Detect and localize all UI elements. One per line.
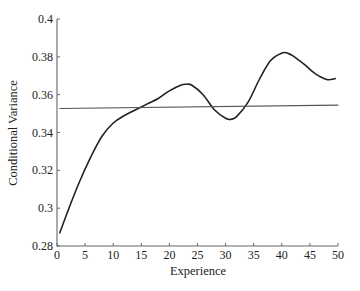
x-tick-label: 20 xyxy=(163,248,175,262)
y-tick-label: 0.32 xyxy=(32,163,53,177)
y-tick-label: 0.28 xyxy=(32,239,53,253)
linear-variance-line xyxy=(60,105,338,108)
x-tick-label: 40 xyxy=(276,248,288,262)
plot-series xyxy=(60,52,338,232)
x-tick-label: 25 xyxy=(192,248,204,262)
x-tick-label: 30 xyxy=(220,248,232,262)
x-axis-title: Experience xyxy=(170,264,227,278)
conditional-variance-chart: 0.280.30.320.340.360.380.4 0510152025303… xyxy=(0,0,360,291)
y-tick-label: 0.3 xyxy=(38,201,53,215)
y-axis-ticks: 0.280.30.320.340.360.380.4 xyxy=(32,12,60,253)
x-tick-label: 0 xyxy=(54,248,60,262)
x-tick-label: 10 xyxy=(107,248,119,262)
x-tick-label: 5 xyxy=(82,248,88,262)
axes xyxy=(57,19,338,246)
y-tick-label: 0.34 xyxy=(32,126,53,140)
x-tick-label: 50 xyxy=(332,248,344,262)
x-tick-label: 15 xyxy=(135,248,147,262)
y-tick-label: 0.4 xyxy=(38,12,53,26)
y-axis-title: Conditional Variance xyxy=(6,80,20,186)
x-tick-label: 45 xyxy=(304,248,316,262)
y-tick-label: 0.36 xyxy=(32,88,53,102)
axis-lines xyxy=(57,19,338,246)
y-tick-label: 0.38 xyxy=(32,50,53,64)
variance-curve xyxy=(60,52,335,232)
x-tick-label: 35 xyxy=(248,248,260,262)
